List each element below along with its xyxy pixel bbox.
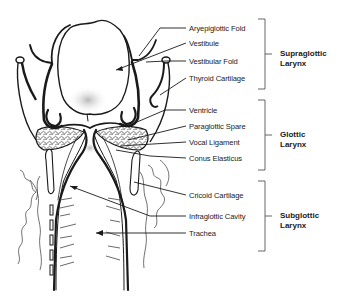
region-name: Supraglottic (280, 49, 327, 59)
label-conus-elasticus: Conus Elasticus (189, 154, 242, 163)
region-subglottic-larynx: Subglottic Larynx (280, 211, 319, 231)
label-infraglottic-cavity: Infraglottic Cavity (189, 212, 245, 221)
aryepiglottic-fold-shape (30, 25, 156, 63)
label-ventricle: Ventricle (189, 106, 217, 115)
region-suffix: Larynx (280, 140, 306, 150)
region-name: Glottic (280, 130, 306, 140)
tracheal-rings (50, 198, 120, 275)
larynx-illustration (0, 0, 340, 303)
label-cricoid-cartilage: Cricoid Cartilage (189, 191, 243, 200)
label-thyroid-cartilage: Thyroid Cartilage (189, 74, 245, 83)
larynx-diagram: Aryepiglottic Fold Vestibule Vestibular … (0, 0, 340, 303)
region-supraglottic-larynx: Supraglottic Larynx (280, 49, 327, 69)
label-vestibule: Vestibule (189, 39, 219, 48)
region-name: Subglottic (280, 211, 319, 221)
region-glottic-larynx: Glottic Larynx (280, 130, 306, 150)
label-trachea: Trachea (189, 229, 216, 238)
label-vocal-ligament: Vocal Ligament (189, 138, 240, 147)
label-vestibular-fold: Vestibular Fold (189, 57, 238, 66)
label-aryepiglottic-fold: Aryepiglottic Fold (189, 24, 245, 33)
region-suffix: Larynx (280, 59, 327, 69)
vocal-folds-shape (54, 130, 128, 290)
region-brackets (258, 19, 272, 251)
label-paraglottic-spare: Paraglottic Spare (189, 122, 246, 131)
region-suffix: Larynx (280, 221, 319, 231)
